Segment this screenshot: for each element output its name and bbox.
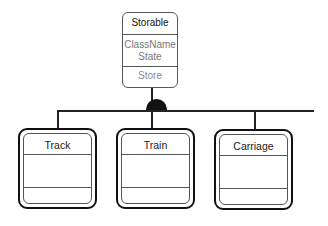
class-box-inner: Track [23, 133, 92, 204]
class-name: Storable [123, 17, 177, 29]
divider [220, 188, 287, 189]
generalization-junction-icon [146, 99, 167, 110]
connector-carriage [254, 110, 256, 129]
divider [24, 187, 91, 188]
connector-track [57, 110, 59, 128]
operation: Store [123, 70, 177, 82]
divider [122, 154, 189, 155]
class-name: Carriage [220, 140, 287, 152]
operations: Store [123, 70, 177, 82]
divider [220, 155, 287, 156]
class-name: Train [122, 139, 189, 151]
attribute: State [123, 51, 177, 63]
divider [122, 187, 189, 188]
connector-horizontal-bar [57, 110, 314, 112]
class-name: Track [24, 139, 91, 151]
class-box-carriage: Carriage [214, 129, 293, 210]
divider [123, 34, 177, 35]
class-box-storable: Storable ClassName State Store [122, 12, 178, 88]
class-box-track: Track [18, 128, 97, 209]
class-box-train: Train [116, 128, 195, 209]
attributes: ClassName State [123, 39, 177, 63]
divider [123, 66, 177, 67]
class-box-inner: Carriage [219, 134, 288, 205]
class-box-inner: Train [121, 133, 190, 204]
divider [24, 154, 91, 155]
attribute: ClassName [123, 39, 177, 51]
